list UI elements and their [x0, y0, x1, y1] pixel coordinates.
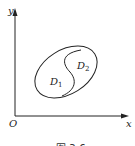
region-d1-label: D1 [49, 76, 63, 89]
region-ellipse [26, 35, 107, 108]
region-d2-label: D2 [76, 60, 90, 73]
dividing-curve [62, 50, 81, 96]
origin-label: O [9, 118, 17, 129]
diagram: y x O D1 D2 图 3-6 [0, 0, 135, 146]
y-axis-label: y [7, 5, 14, 16]
x-axis-label: x [126, 118, 132, 129]
figure-caption: 图 3-6 [56, 143, 86, 146]
